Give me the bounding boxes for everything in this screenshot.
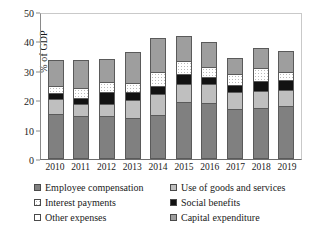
bar-segment[interactable]	[228, 93, 242, 110]
legend-swatch-icon	[170, 184, 177, 191]
stacked-bar[interactable]	[150, 38, 166, 159]
bar-segment[interactable]	[202, 43, 216, 68]
y-axis-tick-label: 0	[29, 155, 34, 166]
bar-segment[interactable]	[177, 103, 191, 158]
bar-column[interactable]	[274, 14, 298, 159]
bar-segment[interactable]	[254, 109, 268, 158]
bar-segment[interactable]	[151, 87, 165, 95]
stacked-bar[interactable]	[227, 58, 243, 159]
bar-column[interactable]	[120, 14, 144, 159]
x-axis-tick-label: 2010	[43, 162, 68, 172]
y-axis-tick-label: 40	[24, 37, 34, 48]
x-axis-tick-label: 2011	[68, 162, 93, 172]
x-axis-tick-label: 2013	[120, 162, 145, 172]
bar-segment[interactable]	[49, 61, 63, 87]
legend-label: Capital expenditure	[181, 212, 260, 223]
bar-segment[interactable]	[74, 117, 88, 158]
bar-segment[interactable]	[177, 37, 191, 62]
bar-segment[interactable]	[126, 84, 140, 93]
bar-segment[interactable]	[202, 68, 216, 78]
legend-item-social[interactable]: Social benefits	[170, 197, 302, 208]
legend-label: Use of goods and services	[181, 182, 285, 193]
bar-segment[interactable]	[151, 95, 165, 116]
legend-item-interest[interactable]: Interest payments	[34, 197, 170, 208]
bar-segment[interactable]	[126, 119, 140, 158]
x-axis-tick-label: 2012	[94, 162, 119, 172]
stacked-bar[interactable]	[176, 36, 192, 159]
bar-segment[interactable]	[126, 53, 140, 83]
chart-container: % of GDP 50403020100 2010201120122013201…	[0, 0, 311, 236]
bar-segment[interactable]	[100, 93, 114, 106]
legend-label: Employee compensation	[45, 182, 144, 193]
legend-item-employee[interactable]: Employee compensation	[34, 182, 170, 193]
stacked-bar[interactable]	[99, 59, 115, 159]
bar-segment[interactable]	[100, 117, 114, 158]
legend-label: Other expenses	[45, 212, 106, 223]
bar-segment[interactable]	[228, 75, 242, 86]
bar-segment[interactable]	[202, 85, 216, 104]
bar-segment[interactable]	[100, 60, 114, 83]
bar-column[interactable]	[248, 14, 272, 159]
bar-segment[interactable]	[100, 105, 114, 117]
bar-column[interactable]	[197, 14, 221, 159]
bar-segment[interactable]	[49, 100, 63, 115]
bar-segment[interactable]	[279, 81, 293, 91]
bar-segment[interactable]	[49, 115, 63, 158]
legend-item-other[interactable]: Other expenses	[34, 212, 170, 223]
x-axis-tick-label: 2017	[223, 162, 248, 172]
bar-segment[interactable]	[279, 107, 293, 158]
bars-layer	[41, 14, 301, 159]
legend-item-capital[interactable]: Capital expenditure	[170, 212, 302, 223]
bar-segment[interactable]	[126, 101, 140, 119]
stacked-bar[interactable]	[278, 51, 294, 159]
bar-segment[interactable]	[254, 82, 268, 91]
legend-swatch-icon	[170, 214, 177, 221]
bar-segment[interactable]	[228, 110, 242, 159]
bar-segment[interactable]	[151, 39, 165, 73]
legend-label: Social benefits	[181, 197, 240, 208]
bar-segment[interactable]	[254, 69, 268, 83]
legend-label: Interest payments	[45, 197, 116, 208]
bar-segment[interactable]	[74, 61, 88, 89]
x-axis-tick-label: 2016	[197, 162, 222, 172]
bar-segment[interactable]	[228, 59, 242, 75]
bar-segment[interactable]	[74, 105, 88, 117]
bar-column[interactable]	[69, 14, 93, 159]
legend-swatch-icon	[34, 199, 41, 206]
bar-segment[interactable]	[202, 104, 216, 158]
bar-segment[interactable]	[151, 116, 165, 158]
y-axis-tick-label: 50	[24, 8, 34, 19]
bar-segment[interactable]	[254, 92, 268, 109]
stacked-bar[interactable]	[48, 60, 64, 159]
y-axis-tick-group: 50403020100	[0, 13, 40, 160]
bar-segment[interactable]	[177, 75, 191, 84]
bar-segment[interactable]	[126, 93, 140, 101]
x-axis-tick-group: 2010201120122013201420152016201720182019	[40, 162, 302, 172]
stacked-bar[interactable]	[253, 48, 269, 159]
bar-segment[interactable]	[279, 91, 293, 107]
bar-column[interactable]	[146, 14, 170, 159]
bar-segment[interactable]	[177, 85, 191, 104]
bar-segment[interactable]	[254, 49, 268, 69]
x-axis-tick-label: 2019	[275, 162, 300, 172]
bar-column[interactable]	[44, 14, 68, 159]
plot-area	[40, 13, 302, 160]
bar-column[interactable]	[95, 14, 119, 159]
bar-segment[interactable]	[177, 62, 191, 75]
bar-segment[interactable]	[74, 89, 88, 99]
bar-segment[interactable]	[100, 83, 114, 92]
x-axis-tick-label: 2014	[146, 162, 171, 172]
bar-segment[interactable]	[279, 73, 293, 81]
stacked-bar[interactable]	[125, 52, 141, 159]
bar-segment[interactable]	[279, 52, 293, 73]
bar-column[interactable]	[172, 14, 196, 159]
x-axis-tick-label: 2018	[249, 162, 274, 172]
stacked-bar[interactable]	[73, 60, 89, 159]
y-axis-tick-label: 30	[24, 66, 34, 77]
stacked-bar[interactable]	[201, 42, 217, 159]
legend-item-goods[interactable]: Use of goods and services	[170, 182, 302, 193]
bar-segment[interactable]	[151, 73, 165, 87]
y-axis-tick-label: 10	[24, 125, 34, 136]
x-axis-tick-label: 2015	[172, 162, 197, 172]
bar-column[interactable]	[223, 14, 247, 159]
